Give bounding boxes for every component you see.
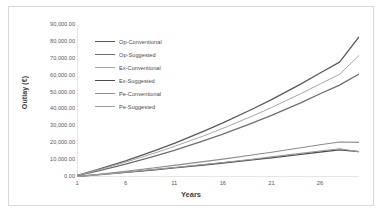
- legend-label: Pe-Suggested: [119, 104, 155, 110]
- legend-line-icon: [95, 106, 115, 107]
- legend-item[interactable]: Pe-Suggested: [95, 100, 207, 113]
- legend-line-icon: [95, 67, 115, 68]
- legend-item[interactable]: Ex-Suggested: [95, 74, 207, 87]
- y-tick-label: 70,000.00: [21, 56, 75, 62]
- y-tick-label: 50,000.00: [21, 90, 75, 96]
- series-line: [77, 142, 359, 176]
- legend-item[interactable]: Ex-Conventional: [95, 61, 207, 74]
- y-tick-label: 0.00: [21, 174, 75, 180]
- y-tick-label: 30,000.00: [21, 124, 75, 130]
- legend-label: Pe-Conventional: [119, 91, 161, 97]
- chart-legend: Op-ConventionalOp-SuggestedEx-Convention…: [95, 35, 207, 113]
- legend-line-icon: [95, 80, 115, 81]
- x-axis-title: Years: [9, 190, 373, 199]
- legend-label: Op-Conventional: [119, 39, 162, 45]
- x-tick-label: 21: [268, 180, 274, 186]
- legend-line-icon: [95, 41, 115, 42]
- y-tick-label: 80,000.00: [21, 39, 75, 45]
- y-tick-label: 60,000.00: [21, 73, 75, 79]
- x-tick-label: 26: [317, 180, 323, 186]
- y-axis-tick-labels: 0.0010,000.0020,000.0030,000.0040,000.00…: [17, 25, 75, 177]
- legend-item[interactable]: Op-Suggested: [95, 48, 207, 61]
- legend-line-icon: [95, 54, 115, 55]
- x-tick-label: 6: [124, 180, 127, 186]
- legend-item[interactable]: Pe-Conventional: [95, 87, 207, 100]
- y-tick-label: 90,000.00: [21, 22, 75, 28]
- y-tick-label: 10,000.00: [21, 157, 75, 163]
- legend-line-icon: [95, 93, 115, 94]
- chart-frame: Outlay (€) 0.0010,000.0020,000.0030,000.…: [8, 6, 374, 206]
- legend-label: Ex-Conventional: [119, 65, 161, 71]
- legend-label: Ex-Suggested: [119, 78, 155, 84]
- y-tick-label: 40,000.00: [21, 107, 75, 113]
- x-tick-label: 16: [220, 180, 226, 186]
- x-tick-label: 11: [171, 180, 177, 186]
- legend-item[interactable]: Op-Conventional: [95, 35, 207, 48]
- x-tick-label: 1: [75, 180, 78, 186]
- y-tick-label: 20,000.00: [21, 140, 75, 146]
- legend-label: Op-Suggested: [119, 52, 156, 58]
